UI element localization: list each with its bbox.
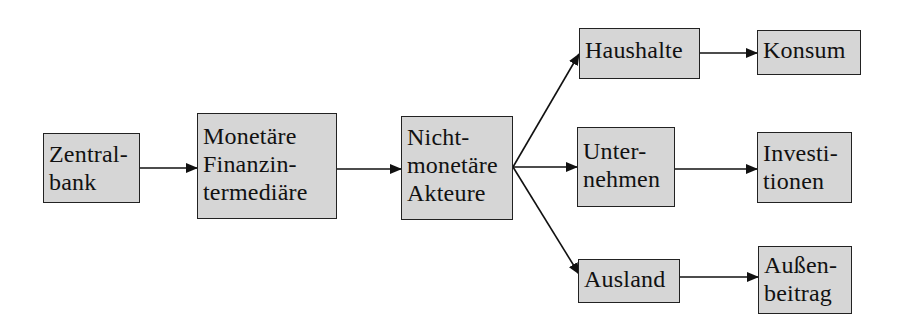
edge-nichtmonetaere-to-ausland [513, 167, 579, 274]
node-monetaere-finanzintermediaere: Monetäre Finanzin- termediäre [197, 113, 337, 219]
node-zentralbank: Zentral- bank [43, 133, 140, 203]
node-haushalte: Haushalte [579, 28, 700, 79]
transmission-diagram: Zentral- bank Monetäre Finanzin- termedi… [0, 0, 905, 329]
node-investitionen: Investi- tionen [757, 132, 852, 203]
node-konsum: Konsum [757, 30, 861, 75]
node-unternehmen: Unter- nehmen [577, 127, 675, 207]
node-nichtmonetaere-akteure: Nicht- monetäre Akteure [401, 116, 513, 220]
node-ausland: Ausland [578, 259, 680, 303]
edge-nichtmonetaere-to-haushalte [513, 54, 579, 167]
node-aussenbeitrag: Außen- beitrag [758, 246, 852, 314]
